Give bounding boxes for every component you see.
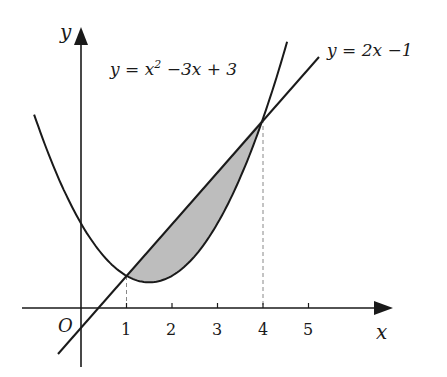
parabola-equation: y = x2 −3x + 3: [110, 58, 237, 79]
x-axis-label: x: [376, 320, 387, 344]
x-tick-label-2: 2: [166, 320, 176, 339]
x-tick-label-4: 4: [258, 320, 268, 339]
origin-label: O: [58, 315, 73, 336]
line-equation: y = 2x −1: [327, 40, 413, 60]
graph-figure: y x O 1 2 3 4 5 y = x2 −3x + 3 y = 2x −1: [0, 0, 447, 377]
x-tick-label-5: 5: [303, 320, 313, 339]
x-axis-arrow-icon: [374, 301, 393, 315]
y-axis-arrow-icon: [74, 27, 88, 45]
x-tick-label-1: 1: [121, 320, 131, 339]
y-axis-label: y: [60, 20, 71, 44]
x-tick-label-3: 3: [212, 320, 222, 339]
line-curve: [58, 57, 319, 354]
